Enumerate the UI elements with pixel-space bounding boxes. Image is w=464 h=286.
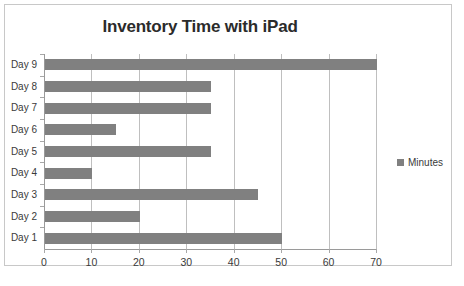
value-tick-label-10: 10	[86, 256, 98, 268]
bar-row[interactable]	[45, 119, 116, 141]
bar-day-7[interactable]	[45, 103, 211, 114]
value-tick-40	[234, 249, 235, 253]
bar-day-2[interactable]	[45, 211, 140, 222]
plot-area: Day 1Day 2Day 3Day 4Day 5Day 6Day 7Day 8…	[44, 54, 376, 249]
category-tick	[40, 54, 44, 55]
gridline-40	[234, 54, 235, 249]
category-label-day-9: Day 9	[0, 54, 37, 76]
value-tick-label-30: 30	[180, 256, 192, 268]
gridline-70	[376, 54, 377, 249]
category-tick	[40, 119, 44, 120]
bar-day-3[interactable]	[45, 189, 258, 200]
category-tick	[40, 97, 44, 98]
category-label-day-5: Day 5	[0, 141, 37, 163]
value-tick-label-0: 0	[41, 256, 47, 268]
category-label-day-1: Day 1	[0, 227, 37, 249]
bar-row[interactable]	[45, 162, 92, 184]
bar-row[interactable]	[45, 227, 282, 249]
bar-day-9[interactable]	[45, 59, 377, 70]
category-label-day-6: Day 6	[0, 119, 37, 141]
value-axis-line	[44, 249, 376, 250]
value-tick-label-40: 40	[228, 256, 240, 268]
bar-row[interactable]	[45, 97, 211, 119]
category-tick	[40, 184, 44, 185]
value-tick-label-20: 20	[133, 256, 145, 268]
bar-day-6[interactable]	[45, 124, 116, 135]
bar-row[interactable]	[45, 54, 377, 76]
gridline-60	[329, 54, 330, 249]
category-tick	[40, 141, 44, 142]
legend-label-minutes: Minutes	[408, 157, 443, 168]
value-tick-0	[44, 249, 45, 253]
bar-row[interactable]	[45, 206, 140, 228]
bar-row[interactable]	[45, 141, 211, 163]
category-label-day-4: Day 4	[0, 162, 37, 184]
category-label-day-8: Day 8	[0, 76, 37, 98]
chart-title: Inventory Time with iPad	[5, 17, 395, 37]
category-label-day-3: Day 3	[0, 184, 37, 206]
legend-swatch-icon	[397, 159, 404, 166]
bar-row[interactable]	[45, 76, 211, 98]
bar-day-8[interactable]	[45, 81, 211, 92]
category-tick	[40, 227, 44, 228]
category-tick	[40, 206, 44, 207]
value-tick-label-70: 70	[370, 256, 382, 268]
value-tick-70	[376, 249, 377, 253]
chart-legend: Minutes	[397, 157, 443, 168]
category-label-day-2: Day 2	[0, 206, 37, 228]
value-tick-10	[91, 249, 92, 253]
bar-day-4[interactable]	[45, 168, 92, 179]
value-tick-50	[281, 249, 282, 253]
category-tick	[40, 162, 44, 163]
category-tick	[40, 76, 44, 77]
value-tick-30	[186, 249, 187, 253]
category-label-day-7: Day 7	[0, 97, 37, 119]
value-tick-label-50: 50	[275, 256, 287, 268]
bar-day-5[interactable]	[45, 146, 211, 157]
bar-day-1[interactable]	[45, 233, 282, 244]
value-tick-label-60: 60	[323, 256, 335, 268]
value-tick-60	[329, 249, 330, 253]
bar-row[interactable]	[45, 184, 258, 206]
chart-frame: Inventory Time with iPad Day 1Day 2Day 3…	[4, 4, 452, 266]
value-tick-20	[139, 249, 140, 253]
gridline-50	[281, 54, 282, 249]
